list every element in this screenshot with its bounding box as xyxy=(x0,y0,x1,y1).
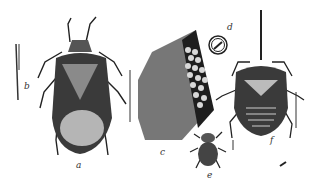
label-b: b xyxy=(24,81,30,91)
adult-bug-drawing xyxy=(38,17,126,155)
illustration xyxy=(0,0,313,189)
egg-mass-leaf-drawing xyxy=(138,30,214,140)
beak-drawing xyxy=(16,44,19,100)
label-e: e xyxy=(207,170,212,180)
label-d: d xyxy=(227,22,233,32)
label-c: c xyxy=(160,147,165,157)
figure-canvas: a b c d e f xyxy=(0,0,313,189)
egg-magnified-drawing xyxy=(209,36,227,54)
young-nymph-drawing xyxy=(190,132,226,168)
ink-mark xyxy=(280,162,286,166)
label-a: a xyxy=(76,160,81,170)
label-f: f xyxy=(270,135,273,145)
